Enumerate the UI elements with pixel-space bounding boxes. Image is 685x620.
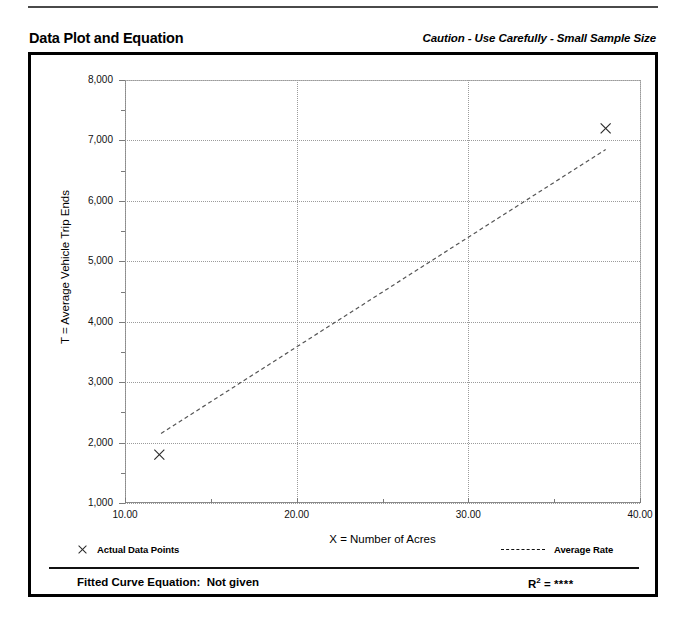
legend-average-rate: Average Rate: [501, 544, 613, 555]
y-tick-minor: [121, 171, 125, 172]
x-marker-icon: [77, 544, 88, 555]
x-tick-label: 20.00: [284, 510, 309, 520]
r-squared-value: R2 = ****: [528, 576, 574, 590]
y-tick-major: [119, 443, 125, 444]
chart-frame: 1,0002,0003,0004,0005,0006,0007,0008,000…: [28, 52, 658, 597]
r2-stars: ****: [554, 578, 574, 590]
gridline-horizontal: [125, 201, 640, 202]
dashed-line-icon: [501, 549, 545, 550]
x-tick-major: [297, 498, 298, 503]
legend-label-average-rate: Average Rate: [554, 544, 613, 555]
x-tick-major: [125, 498, 126, 503]
y-tick-minor: [121, 292, 125, 293]
x-tick-minor: [383, 499, 384, 503]
y-tick-label: 2,000: [57, 438, 113, 448]
gridline-horizontal: [125, 443, 640, 444]
y-tick-label: 8,000: [57, 75, 113, 85]
x-tick-minor: [211, 499, 212, 503]
gridline-horizontal: [125, 80, 640, 81]
y-axis-title: T = Average Vehicle Trip Ends: [59, 157, 71, 377]
y-tick-minor: [121, 231, 125, 232]
legend-actual-data-points: Actual Data Points: [77, 544, 179, 555]
legend-label-data-points: Actual Data Points: [97, 544, 179, 555]
gridline-vertical: [125, 80, 126, 503]
plot-wrapper: 1,0002,0003,0004,0005,0006,0007,0008,000…: [31, 55, 655, 594]
y-tick-major: [119, 140, 125, 141]
equation-divider: [49, 567, 639, 569]
equation-label: Fitted Curve Equation:: [77, 576, 200, 588]
gridline-vertical: [468, 80, 469, 503]
gridline-horizontal: [125, 140, 640, 141]
y-tick-major: [119, 261, 125, 262]
y-tick-major: [119, 201, 125, 202]
x-tick-label: 10.00: [112, 510, 137, 520]
y-tick-major: [119, 503, 125, 504]
gridline-horizontal: [125, 503, 640, 504]
page-title: Data Plot and Equation: [29, 30, 183, 46]
x-tick-label: 30.00: [456, 510, 481, 520]
gridline-vertical: [640, 80, 641, 503]
y-tick-major: [119, 382, 125, 383]
gridline-horizontal: [125, 382, 640, 383]
y-tick-minor: [121, 352, 125, 353]
x-tick-minor: [554, 499, 555, 503]
gridline-horizontal: [125, 322, 640, 323]
x-tick-major: [468, 498, 469, 503]
caution-note: Caution - Use Carefully - Small Sample S…: [423, 32, 656, 44]
x-tick-major: [640, 498, 641, 503]
top-divider: [28, 6, 658, 8]
y-tick-minor: [121, 110, 125, 111]
y-tick-label: 3,000: [57, 377, 113, 387]
r2-equals: =: [541, 578, 554, 590]
equation-value: Not given: [207, 576, 259, 588]
gridline-vertical: [297, 80, 298, 503]
y-tick-label: 1,000: [57, 498, 113, 508]
y-tick-minor: [121, 473, 125, 474]
page-root: Data Plot and Equation Caution - Use Car…: [0, 0, 685, 620]
y-tick-minor: [121, 412, 125, 413]
y-tick-major: [119, 80, 125, 81]
y-tick-major: [119, 322, 125, 323]
x-tick-label: 40.00: [627, 510, 652, 520]
plot-area: [125, 80, 640, 503]
gridline-horizontal: [125, 261, 640, 262]
fitted-curve-equation: Fitted Curve Equation: Not given: [77, 576, 259, 588]
y-tick-label: 7,000: [57, 135, 113, 145]
